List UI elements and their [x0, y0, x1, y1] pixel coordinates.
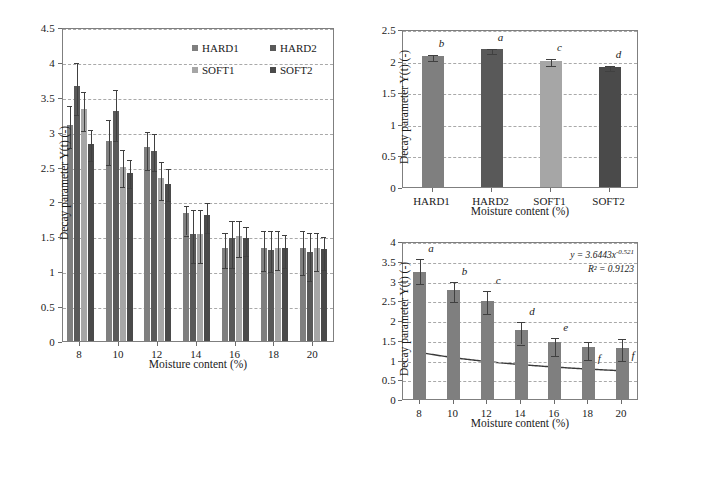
error-bar-cap-bottom	[605, 71, 615, 72]
legend-label: HARD2	[280, 42, 317, 54]
error-bar	[555, 338, 556, 356]
gridline	[63, 169, 333, 170]
y-tick-label: 3	[390, 276, 396, 288]
y-tick-mark	[398, 62, 402, 63]
error-bar	[239, 221, 240, 257]
error-bar-cap-top	[127, 160, 132, 161]
x-tick-label: 16	[548, 407, 559, 419]
error-bar-cap-top	[236, 221, 241, 222]
error-bar	[225, 233, 226, 269]
legend-item: SOFT2	[270, 64, 312, 76]
error-bar-cap-top	[321, 237, 326, 238]
y-tick-mark	[398, 301, 402, 302]
y-tick-mark	[58, 272, 62, 273]
error-bar	[271, 231, 272, 272]
bar	[447, 290, 460, 399]
error-bar-cap-top	[314, 233, 319, 234]
legend-label: SOFT1	[202, 64, 234, 76]
x-tick-label: 18	[268, 348, 279, 360]
x-tick-label: 20	[307, 348, 318, 360]
error-bar-cap-top	[307, 233, 312, 234]
error-bar	[454, 282, 455, 302]
error-bar-cap-top	[261, 231, 266, 232]
x-tick-mark	[587, 400, 588, 404]
error-bar	[324, 237, 325, 270]
error-bar-cap-top	[282, 235, 287, 236]
bar	[422, 56, 444, 187]
error-bar-cap-top	[428, 55, 438, 56]
error-bar	[186, 206, 187, 235]
y-tick-label: 1	[390, 355, 396, 367]
bar	[599, 67, 621, 187]
error-bar-cap-top	[618, 339, 626, 340]
error-bar	[285, 235, 286, 269]
error-bar-cap-bottom	[145, 170, 150, 171]
y-tick-mark	[398, 282, 402, 283]
y-tick-label: 3.5	[41, 92, 55, 104]
x-tick-label: 16	[229, 348, 240, 360]
top-right-bar-chart: bacd Decay parameter Y(t) (-) Moisture c…	[350, 0, 702, 225]
fit-equation-annotation: y = 3.6443x-0.521R² = 0.9123	[570, 247, 634, 277]
gridline	[403, 243, 637, 244]
legend-item: SOFT1	[192, 64, 234, 76]
gridline	[403, 283, 637, 284]
top-right-plot-area: bacd	[402, 30, 638, 188]
error-bar	[147, 132, 148, 170]
error-bar	[317, 233, 318, 271]
error-bar-cap-bottom	[127, 188, 132, 189]
x-tick-label: 14	[190, 348, 201, 360]
x-tick-label: SOFT2	[592, 195, 624, 207]
significance-label: f	[632, 349, 635, 361]
error-bar-cap-bottom	[191, 263, 196, 264]
error-bar-cap-top	[416, 259, 424, 260]
bar	[106, 141, 112, 341]
top-right-y-axis-title: Decay parameter Y(t) (-)	[398, 47, 410, 167]
error-bar-cap-bottom	[261, 271, 266, 272]
y-tick-label: 0.5	[382, 150, 396, 162]
y-tick-mark	[398, 125, 402, 126]
x-tick-label: 8	[76, 348, 82, 360]
x-tick-label: 10	[113, 348, 124, 360]
gridline	[63, 99, 333, 100]
error-bar-cap-top	[113, 90, 118, 91]
x-tick-label: 12	[151, 348, 162, 360]
error-bar	[264, 231, 265, 271]
y-tick-label: 0	[390, 394, 396, 406]
error-bar	[130, 160, 131, 189]
x-tick-mark	[486, 400, 487, 404]
error-bar-cap-top	[74, 63, 79, 64]
gridline	[403, 31, 637, 32]
bar	[127, 173, 133, 341]
y-tick-mark	[398, 188, 402, 189]
error-bar-cap-top	[450, 282, 458, 283]
x-tick-label: 18	[582, 407, 593, 419]
x-tick-label: HARD2	[472, 195, 509, 207]
y-tick-mark	[398, 30, 402, 31]
error-bar-cap-bottom	[88, 161, 93, 162]
left-grouped-bar-chart: Decay parameter Y(t) (-) Moisture conten…	[0, 0, 350, 478]
error-bar	[84, 92, 85, 131]
bar	[481, 301, 494, 399]
significance-label: b	[439, 37, 445, 49]
bar	[413, 272, 426, 399]
y-tick-mark	[58, 133, 62, 134]
error-bar-cap-bottom	[222, 268, 227, 269]
error-bar-cap-bottom	[275, 270, 280, 271]
y-tick-mark	[58, 307, 62, 308]
y-tick-label: 4	[49, 57, 55, 69]
y-tick-label: 2	[390, 315, 396, 327]
error-bar	[200, 210, 201, 263]
x-tick-label: 10	[447, 407, 458, 419]
y-tick-label: 2.5	[382, 295, 396, 307]
error-bar-cap-bottom	[307, 281, 312, 282]
y-tick-label: 2.5	[41, 162, 55, 174]
error-bar	[91, 130, 92, 161]
error-bar-cap-top	[106, 120, 111, 121]
error-bar-cap-bottom	[243, 256, 248, 257]
gridline	[63, 134, 333, 135]
error-bar-cap-top	[268, 231, 273, 232]
y-tick-mark	[398, 262, 402, 263]
x-tick-mark	[196, 342, 197, 346]
error-bar-cap-bottom	[314, 271, 319, 272]
error-bar-cap-bottom	[487, 54, 497, 55]
